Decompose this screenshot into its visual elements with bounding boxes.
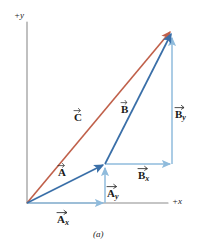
vector-label-C-letter: C	[74, 111, 82, 123]
vector-arrow-overset-icon	[138, 165, 148, 170]
vector-arrow-overset-icon	[74, 107, 81, 112]
vector-label-By-subscript: y	[182, 113, 186, 122]
vector-diagram-canvas	[0, 0, 200, 251]
axis-label-positive-y: +y	[14, 11, 24, 20]
vector-label-C: C	[74, 108, 82, 124]
vector-label-Ay: Ay	[107, 184, 119, 201]
component-vectors-group	[27, 38, 172, 203]
vector-label-Ax-letter: A	[57, 213, 65, 225]
figure-caption: (a)	[93, 230, 104, 239]
vector-label-Bx: Bx	[138, 166, 149, 183]
vector-arrow-overset-icon	[121, 99, 127, 104]
vector-arrow-overset-icon	[58, 162, 65, 167]
vector-label-B-letter: B	[121, 103, 128, 115]
vector-label-By: By	[175, 105, 186, 122]
vector-arrow-overset-icon	[175, 104, 185, 109]
vector-label-B: B	[121, 100, 128, 116]
vector-arrow-overset-icon	[57, 209, 68, 214]
vector-diagram-figure: +y +x C B A By Bx	[0, 0, 200, 251]
vector-label-Ay-letter: A	[107, 187, 115, 199]
vector-label-Ay-subscript: y	[115, 192, 119, 201]
vector-label-Ax-subscript: x	[65, 218, 69, 227]
vector-label-Ax: Ax	[57, 210, 69, 227]
vector-label-Bx-subscript: x	[145, 174, 149, 183]
vector-label-A: A	[58, 163, 66, 179]
vector-arrow-overset-icon	[107, 183, 118, 188]
vector-label-A-letter: A	[58, 166, 66, 178]
axis-label-positive-x: +x	[172, 197, 182, 206]
